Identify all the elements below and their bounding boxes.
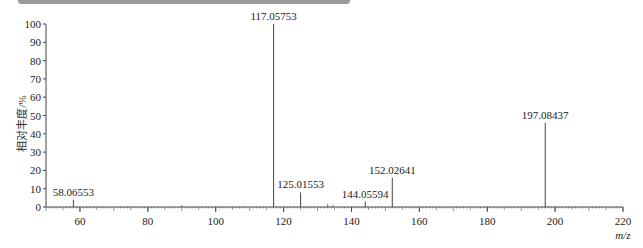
- peak-label: 117.05753: [250, 10, 297, 22]
- x-tick-label: 100: [207, 215, 224, 227]
- y-tick-label: 100: [25, 18, 42, 30]
- y-tick-label: 10: [30, 183, 42, 195]
- y-tick-label: 80: [30, 55, 42, 67]
- y-tick-label: 60: [30, 91, 42, 103]
- x-tick-label: 180: [479, 215, 496, 227]
- peak-label: 125.01553: [277, 178, 324, 190]
- labels: 0102030405060708090100608010012014016018…: [15, 10, 632, 241]
- mass-spectrum-chart: 0102030405060708090100608010012014016018…: [0, 0, 643, 248]
- x-tick-label: 200: [547, 215, 564, 227]
- peak-label: 58.06553: [53, 186, 95, 198]
- x-tick-label: 220: [615, 215, 632, 227]
- y-tick-label: 20: [30, 164, 42, 176]
- x-tick-label: 80: [142, 215, 154, 227]
- x-tick-label: 120: [275, 215, 292, 227]
- peak-label: 152.02641: [369, 164, 416, 176]
- peak-label: 197.08437: [522, 109, 569, 121]
- x-tick-label: 140: [343, 215, 360, 227]
- y-axis-label: 相对丰度/%: [15, 95, 28, 151]
- y-tick-label: 40: [30, 128, 42, 140]
- y-tick-label: 50: [30, 110, 42, 122]
- x-axis-label: m/z: [615, 229, 631, 241]
- peak-label: 144.05594: [342, 188, 389, 200]
- x-tick-label: 60: [74, 215, 86, 227]
- x-tick-label: 160: [411, 215, 428, 227]
- y-tick-label: 30: [30, 146, 42, 158]
- y-tick-label: 70: [30, 73, 42, 85]
- y-tick-label: 0: [36, 201, 42, 213]
- y-tick-label: 90: [30, 36, 42, 48]
